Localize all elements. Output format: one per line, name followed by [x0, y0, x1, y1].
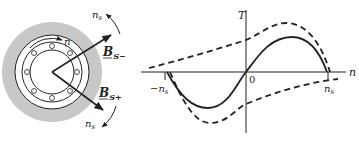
field-minus-label: BS−: [102, 45, 126, 61]
rotor-speed-label: n: [64, 36, 70, 47]
rotation-arrow-cw: [102, 106, 116, 127]
motor-cross-section: n BS− BS+ ns ns: [2, 9, 126, 131]
tick-label-neg-ns: −ns: [150, 83, 169, 96]
rotation-bottom-label: ns: [85, 118, 95, 131]
x-axis-label: n: [349, 66, 356, 79]
tick-label-ns: ns: [324, 83, 334, 96]
field-plus-label: BS+: [98, 86, 122, 102]
rotation-arrow-ccw: [106, 14, 120, 34]
rotation-top-label: ns: [92, 9, 102, 22]
torque-speed-chart: T n 0 −ns ns: [141, 9, 356, 133]
forward-torque-curve: [149, 23, 330, 72]
diagram-canvas: n BS− BS+ ns ns T n 0 −ns ns: [0, 0, 359, 158]
origin-label: 0: [249, 74, 255, 85]
